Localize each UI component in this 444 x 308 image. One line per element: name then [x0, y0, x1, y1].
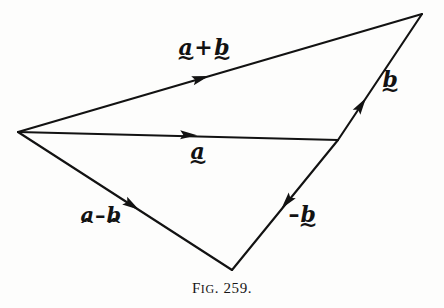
- caption-smallcaps: IG: [201, 282, 215, 296]
- caption-prefix: F: [192, 280, 201, 296]
- label-glyph-a: a: [190, 140, 205, 162]
- vector-label-minus-b: –b: [288, 203, 316, 225]
- vector-label-a-plus-b: a+b: [178, 36, 230, 58]
- label-operator-minus: –: [95, 202, 107, 227]
- vector-label-a: a: [190, 140, 205, 162]
- label-glyph-b: b: [106, 204, 122, 225]
- vector-label-b: b: [382, 68, 398, 90]
- label-glyph-b: b: [300, 203, 316, 225]
- label-operator-plus: +: [193, 34, 213, 60]
- label-glyph-a: a: [80, 204, 95, 225]
- vector-arrowheads-group: [122, 76, 366, 210]
- label-glyph-a: a: [178, 36, 193, 58]
- label-glyph-b: b: [214, 36, 230, 58]
- figure-caption: FIG. 259.: [0, 280, 444, 297]
- vector-line-a_plus_b: [18, 14, 422, 132]
- arrowhead-b: [353, 98, 366, 115]
- vector-line-a: [18, 132, 338, 140]
- caption-number: . 259.: [215, 280, 252, 296]
- vector-label-a-minus-b: a–b: [80, 204, 122, 225]
- arrowhead-a_minus_b: [122, 197, 139, 210]
- figure-container: a+b a b –b a–b FIG. 259.: [0, 0, 444, 308]
- label-glyph-b: b: [382, 68, 398, 90]
